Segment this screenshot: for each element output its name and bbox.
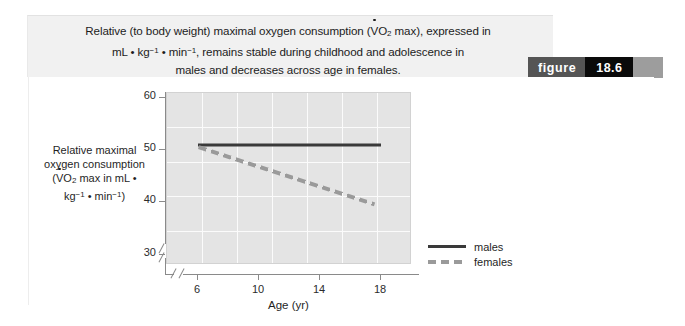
caption-line1-part-a: Relative (to body weight) maximal oxygen… (85, 24, 370, 37)
plot-area (166, 92, 411, 264)
y-axis-title: Relative maximal oxygen consumption (VO2… (42, 143, 147, 204)
gridline-horizontal (167, 231, 410, 232)
x-axis-tick-label: 6 (180, 283, 214, 295)
caption-line1-part-b: max), expressed in (391, 24, 490, 37)
figure-badge-word: figure (528, 57, 585, 78)
gridline-vertical (272, 93, 273, 263)
y-title-sup-1: −1 (76, 190, 85, 199)
y-axis-line (165, 92, 166, 244)
x-axis-tick (197, 274, 198, 280)
gridline-vertical (307, 93, 308, 263)
legend-label-males: males (474, 241, 503, 253)
y-axis-tick (159, 254, 165, 255)
gridline-horizontal (167, 127, 410, 128)
gridline-horizontal (167, 162, 410, 163)
figure-badge-number: 18.6 (585, 57, 633, 78)
caption-line3: males and decreases across age in female… (175, 63, 400, 76)
series-line-females (198, 145, 375, 206)
legend-swatch-males (428, 245, 466, 248)
x-axis-tick-label: 18 (363, 283, 397, 295)
y-axis-tick (159, 97, 165, 98)
y-title-o: O (63, 172, 72, 184)
y-title-v: V (56, 172, 63, 184)
y-title-line4-b: • min (85, 191, 113, 203)
y-title-line3-b: max in mL • (76, 172, 136, 184)
gridline-vertical (342, 93, 343, 263)
caption-v: V (371, 24, 379, 37)
figure-container: Relative (to body weight) maximal oxygen… (0, 0, 685, 326)
chart-legend: malesfemales (428, 239, 513, 269)
caption-line2-part-b: • min (159, 46, 188, 59)
y-axis-tick-label: 30 (128, 246, 156, 258)
x-axis-tick-label: 14 (302, 283, 336, 295)
y-axis-tick-label: 60 (128, 89, 156, 101)
caption-line2-part-c: , remains stable during childhood and ad… (196, 46, 464, 59)
figure-badge-tail (633, 57, 663, 78)
gridline-vertical (202, 93, 203, 263)
gridline-vertical (237, 93, 238, 263)
legend-item-females: females (428, 254, 513, 269)
legend-label-females: females (474, 256, 513, 268)
x-axis-title: Age (yr) (196, 299, 381, 311)
y-axis-tick (159, 149, 165, 150)
gridline-vertical (377, 93, 378, 263)
figure-caption-band: Relative (to body weight) maximal oxygen… (27, 15, 553, 77)
x-axis-tick-label: 10 (241, 283, 275, 295)
x-axis-tick (319, 274, 320, 280)
x-axis-tick (258, 274, 259, 280)
y-axis-lower-segment (165, 258, 166, 275)
caption-line2-part-a: mL • kg (112, 46, 150, 59)
series-line-males (198, 144, 382, 147)
y-title-line1: Relative maximal (53, 144, 137, 156)
figure-number-badge: figure 18.6 (528, 57, 663, 78)
caption-o: O (378, 24, 387, 37)
v-dot-notation: V (371, 22, 379, 39)
y-title-line4-a: kg (64, 191, 76, 203)
y-axis-tick (159, 201, 165, 202)
legend-swatch-females (428, 260, 466, 264)
caption-sup-2: −1 (187, 46, 196, 55)
legend-item-males: males (428, 239, 513, 254)
figure-caption-text: Relative (to body weight) maximal oxygen… (38, 22, 538, 78)
y-title-v-dot-notation: V (56, 171, 63, 185)
x-axis-line (183, 274, 419, 275)
y-title-line4-c: ) (121, 191, 125, 203)
caption-sup-1: −1 (150, 46, 159, 55)
x-axis-tick (380, 274, 381, 280)
gridline-horizontal (167, 196, 410, 197)
